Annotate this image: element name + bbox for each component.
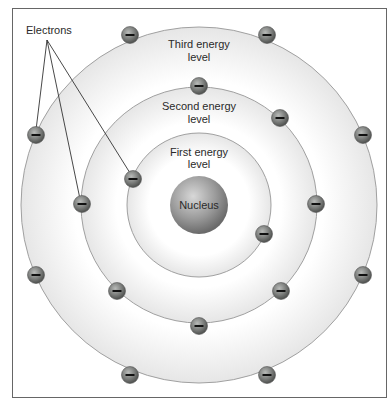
electron-icon	[259, 27, 276, 44]
electron-icon	[259, 367, 276, 384]
atom-diagram: Electrons Third energy level Second ener…	[0, 0, 391, 407]
electrons-callout-label: Electrons	[26, 24, 72, 36]
electron-icon	[125, 171, 142, 188]
electron-icon	[191, 318, 208, 335]
electron-icon	[355, 127, 372, 144]
electron-icon	[272, 110, 289, 127]
electron-icon	[28, 267, 45, 284]
second-level-label-line1: Second energy	[162, 100, 236, 112]
electron-icon	[109, 283, 126, 300]
electron-icon	[28, 127, 45, 144]
third-level-label-line1: Third energy	[168, 38, 230, 50]
second-level-label-line2: level	[188, 113, 211, 125]
electron-icon	[273, 283, 290, 300]
third-level-label-line2: level	[188, 51, 211, 63]
first-level-label-line1: First energy	[170, 146, 229, 158]
electron-icon	[256, 226, 273, 243]
electron-icon	[355, 267, 372, 284]
electron-icon	[122, 27, 139, 44]
electron-icon	[122, 367, 139, 384]
first-level-label-line2: level	[188, 158, 211, 170]
electron-icon	[191, 78, 208, 95]
nucleus-label: Nucleus	[179, 199, 219, 211]
electron-icon	[308, 196, 325, 213]
electron-icon	[74, 196, 91, 213]
